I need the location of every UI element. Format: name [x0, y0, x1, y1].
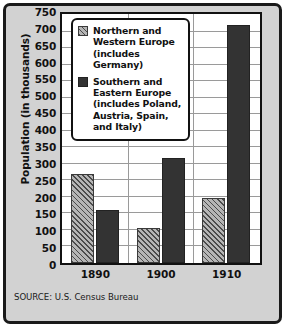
- y-axis-tick-labels: 0501001502002503003504004505005506006507…: [22, 12, 56, 265]
- legend-label-1: Northern andWestern Europe(includes Germ…: [93, 25, 183, 71]
- source-note: SOURCE: U.S. Census Bureau: [14, 292, 138, 302]
- bar-1910-series2: [227, 25, 250, 263]
- bar-1910-series1: [202, 198, 225, 263]
- chart-legend: Northern andWestern Europe(includes Germ…: [71, 18, 190, 141]
- y-axis-tick-500: 500: [22, 90, 56, 102]
- legend-swatch-hatched-icon: [78, 26, 88, 36]
- legend-swatch-solid-icon: [78, 77, 88, 87]
- y-axis-tick-750: 750: [22, 6, 56, 18]
- y-axis-tick-0: 0: [22, 259, 56, 271]
- y-axis-tick-600: 600: [22, 57, 56, 69]
- bar-1890-series2: [96, 210, 119, 263]
- legend-label-2: Southern andEastern Europe(includes Pola…: [93, 76, 181, 133]
- x-axis-tick-labels: 189019001910: [60, 268, 262, 284]
- x-axis-tick-1890: 1890: [81, 268, 110, 280]
- y-axis-tick-50: 50: [22, 242, 56, 254]
- x-axis-tick-1910: 1910: [212, 268, 241, 280]
- y-axis-tick-100: 100: [22, 225, 56, 237]
- legend-entry-1: Northern andWestern Europe(includes Germ…: [78, 25, 183, 71]
- y-axis-tick-250: 250: [22, 175, 56, 187]
- bar-1890-series1: [71, 174, 94, 263]
- chart-figure: Population (in thousands) 05010015020025…: [0, 0, 285, 327]
- y-axis-tick-550: 550: [22, 73, 56, 85]
- y-axis-tick-400: 400: [22, 124, 56, 136]
- x-axis-tick-1900: 1900: [146, 268, 175, 280]
- y-axis-tick-300: 300: [22, 158, 56, 170]
- y-axis-tick-700: 700: [22, 23, 56, 35]
- y-axis-tick-450: 450: [22, 107, 56, 119]
- y-axis-tick-150: 150: [22, 208, 56, 220]
- gridline-vertical: [193, 14, 194, 263]
- legend-entry-2: Southern andEastern Europe(includes Pola…: [78, 76, 183, 133]
- y-axis-tick-200: 200: [22, 192, 56, 204]
- y-axis-tick-650: 650: [22, 40, 56, 52]
- y-axis-tick-350: 350: [22, 141, 56, 153]
- bar-1900-series2: [162, 158, 185, 263]
- bar-1900-series1: [137, 228, 160, 263]
